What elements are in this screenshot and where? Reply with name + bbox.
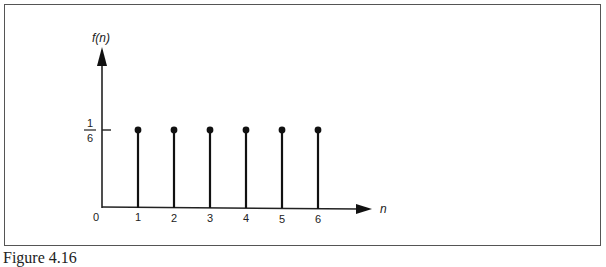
y-tick-numerator: 1 (87, 117, 93, 129)
x-tick-label: 5 (279, 213, 285, 225)
stems (135, 127, 322, 209)
y-axis-arrow-icon (97, 47, 107, 66)
x-tick-label: 2 (171, 212, 177, 224)
x-tick-label: 3 (207, 212, 213, 224)
x-axis-label: n (380, 202, 387, 216)
origin-label: 0 (93, 211, 99, 223)
y-tick-denominator: 6 (87, 132, 93, 144)
figure-caption: Figure 4.16 (3, 249, 77, 267)
x-tick-label: 6 (315, 213, 321, 225)
x-tick-label: 1 (135, 211, 141, 223)
y-axis-label: f(n) (92, 31, 110, 45)
x-axis (102, 207, 360, 209)
x-tick-label: 4 (243, 212, 249, 224)
x-axis-arrow-icon (356, 204, 372, 214)
